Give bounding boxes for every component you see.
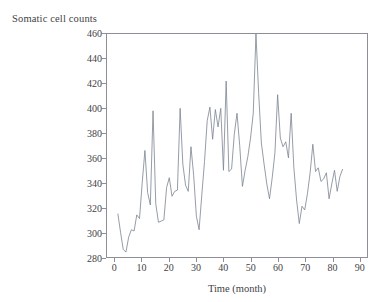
y-axis-tick-mark xyxy=(102,233,106,234)
x-axis-tick-label: 30 xyxy=(181,262,211,273)
y-axis-tick-mark xyxy=(102,58,106,59)
y-axis-tick-label: 460 xyxy=(62,28,102,39)
x-axis-tick-label: 0 xyxy=(99,262,129,273)
y-axis-tick-label: 360 xyxy=(62,153,102,164)
x-axis-tick-label: 90 xyxy=(345,262,375,273)
y-axis-tick-label: 420 xyxy=(62,78,102,89)
x-axis-tick-label: 50 xyxy=(236,262,266,273)
y-axis-tick-mark xyxy=(102,33,106,34)
y-axis-tick-mark xyxy=(102,183,106,184)
x-axis-tick-label: 70 xyxy=(290,262,320,273)
x-axis-tick-mark xyxy=(223,258,224,262)
y-axis-tick-label: 380 xyxy=(62,128,102,139)
x-axis-tick-mark xyxy=(251,258,252,262)
x-axis-tick-mark xyxy=(360,258,361,262)
y-axis-tick-mark xyxy=(102,258,106,259)
x-axis-tick-mark xyxy=(141,258,142,262)
x-axis-tick-mark xyxy=(196,258,197,262)
y-axis-tick-mark xyxy=(102,208,106,209)
y-axis-tick-label: 400 xyxy=(62,103,102,114)
x-axis-tick-label: 60 xyxy=(263,262,293,273)
y-axis-tick-mark xyxy=(102,133,106,134)
x-axis-tick-mark xyxy=(278,258,279,262)
data-series-line xyxy=(107,34,367,257)
y-axis-tick-label: 300 xyxy=(62,228,102,239)
y-axis-tick-mark xyxy=(102,108,106,109)
x-axis-tick-label: 40 xyxy=(208,262,238,273)
y-axis-tick-mark xyxy=(102,158,106,159)
y-axis-tick-label: 280 xyxy=(62,253,102,264)
x-axis-tick-mark xyxy=(333,258,334,262)
x-axis-tick-mark xyxy=(114,258,115,262)
y-axis-tick-label: 320 xyxy=(62,203,102,214)
x-axis-tick-label: 10 xyxy=(126,262,156,273)
chart-figure: Somatic cell counts 28030032034036038040… xyxy=(0,0,389,302)
x-axis-tick-label: 20 xyxy=(154,262,184,273)
y-axis-tick-labels: 280300320340360380400420440460 xyxy=(60,0,102,302)
somatic-cell-counts-polyline xyxy=(118,34,343,252)
plot-area xyxy=(106,33,368,258)
x-axis-tick-mark xyxy=(169,258,170,262)
y-axis-tick-label: 440 xyxy=(62,53,102,64)
x-axis-tick-label: 80 xyxy=(318,262,348,273)
y-axis-tick-label: 340 xyxy=(62,178,102,189)
y-axis-tick-mark xyxy=(102,83,106,84)
x-axis-tick-mark xyxy=(305,258,306,262)
x-axis-label: Time (month) xyxy=(106,283,368,294)
